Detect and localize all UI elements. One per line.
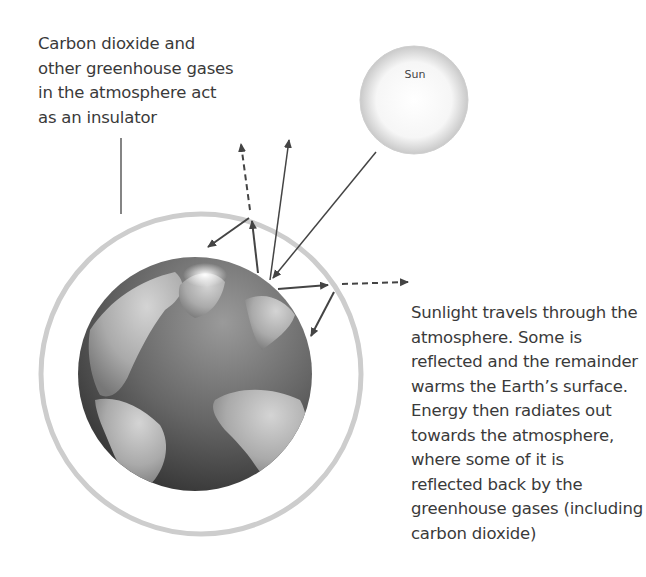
- insulator-label: Carbon dioxide and other greenhouse gase…: [38, 32, 318, 130]
- incoming-sunlight-arrow: [273, 152, 376, 278]
- reflected-sunlight-arrow: [270, 140, 289, 280]
- sun: [360, 46, 468, 154]
- escape-arrow-up: [241, 144, 250, 210]
- sun-label: Sun: [360, 68, 470, 81]
- escape-arrow-right: [342, 282, 408, 284]
- back-radiation-arrow-left: [208, 218, 249, 247]
- earth-globe: [78, 257, 312, 491]
- radiated-energy-arrow-right: [278, 285, 328, 289]
- back-radiation-arrow-down: [311, 292, 334, 336]
- process-description: Sunlight travels through the atmosphere.…: [411, 301, 646, 546]
- radiated-energy-arrow-up: [252, 221, 258, 273]
